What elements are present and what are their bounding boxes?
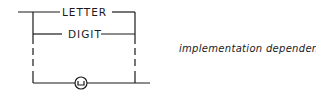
branch-letter-label: LETTER	[62, 6, 107, 18]
space-symbol-circle	[75, 77, 87, 89]
syntax-diagram: LETTER DIGIT implementation dependent	[0, 0, 316, 95]
implementation-note: implementation dependent	[179, 43, 316, 54]
branch-digit-label: DIGIT	[68, 28, 102, 40]
space-symbol-icon	[78, 81, 84, 85]
